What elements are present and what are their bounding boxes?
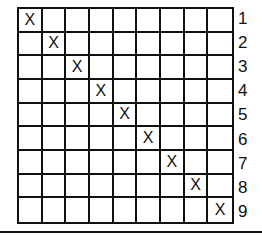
grid-cell xyxy=(114,80,138,104)
grid-cell xyxy=(137,9,161,33)
row-label: 7 xyxy=(238,152,258,176)
grid-cell xyxy=(19,56,43,80)
grid-cell xyxy=(185,9,209,33)
grid-cell xyxy=(43,198,67,222)
grid-cell xyxy=(161,80,185,104)
grid-cell xyxy=(137,80,161,104)
grid-cell xyxy=(208,56,232,80)
grid-cell xyxy=(185,198,209,222)
grid-cell xyxy=(66,80,90,104)
grid-cell xyxy=(43,104,67,128)
grid-cell: X xyxy=(19,9,43,33)
grid-cell xyxy=(66,9,90,33)
grid-cell xyxy=(161,33,185,57)
horizontal-rule xyxy=(0,231,262,233)
row-label: 8 xyxy=(238,176,258,200)
x-mark: X xyxy=(48,34,59,52)
grid-cell: X xyxy=(137,127,161,151)
row-label: 1 xyxy=(238,7,258,31)
diagonal-grid: XXXXXXXXX xyxy=(17,7,234,224)
grid-cell xyxy=(161,127,185,151)
grid-cell xyxy=(19,151,43,175)
grid-cell xyxy=(43,175,67,199)
x-mark: X xyxy=(119,105,130,123)
row-label: 6 xyxy=(238,128,258,152)
grid-cell xyxy=(185,33,209,57)
grid-cell xyxy=(66,198,90,222)
x-mark: X xyxy=(24,11,35,29)
grid-cell xyxy=(66,151,90,175)
grid-cell xyxy=(161,9,185,33)
row-label: 5 xyxy=(238,103,258,127)
grid-cell xyxy=(161,198,185,222)
grid-cell xyxy=(114,127,138,151)
grid-cell xyxy=(208,175,232,199)
grid-cell xyxy=(19,33,43,57)
grid-cell xyxy=(114,175,138,199)
grid-cell xyxy=(185,104,209,128)
grid-cell xyxy=(208,33,232,57)
row-labels: 123456789 xyxy=(238,7,258,224)
grid-cell xyxy=(114,151,138,175)
grid-cell xyxy=(90,9,114,33)
row-label: 2 xyxy=(238,31,258,55)
grid-cell xyxy=(208,9,232,33)
grid-cell xyxy=(137,33,161,57)
grid-cell xyxy=(90,33,114,57)
grid-cell xyxy=(90,151,114,175)
grid-cell xyxy=(114,198,138,222)
grid-cell xyxy=(161,104,185,128)
grid-cell xyxy=(43,151,67,175)
x-mark: X xyxy=(143,129,154,147)
grid-cell xyxy=(114,56,138,80)
grid-cell xyxy=(90,127,114,151)
grid-cell xyxy=(19,80,43,104)
row-label: 3 xyxy=(238,55,258,79)
x-mark: X xyxy=(72,58,83,76)
grid-cell xyxy=(43,56,67,80)
grid-cell xyxy=(90,175,114,199)
x-mark: X xyxy=(190,176,201,194)
grid-cell xyxy=(161,175,185,199)
x-mark: X xyxy=(215,201,226,219)
grid-cell xyxy=(66,104,90,128)
grid-cell xyxy=(185,80,209,104)
grid-cell xyxy=(19,104,43,128)
grid-cell xyxy=(19,198,43,222)
grid-cell xyxy=(114,33,138,57)
grid-cell: X xyxy=(43,33,67,57)
grid-cell xyxy=(137,175,161,199)
grid-cell xyxy=(43,9,67,33)
grid-cell xyxy=(66,175,90,199)
grid-cell: X xyxy=(66,56,90,80)
grid-cell: X xyxy=(114,104,138,128)
grid-cell xyxy=(208,104,232,128)
grid-cell xyxy=(185,56,209,80)
grid-cell xyxy=(66,127,90,151)
grid-cell xyxy=(114,9,138,33)
grid-cell xyxy=(137,56,161,80)
grid-cell: X xyxy=(185,175,209,199)
x-mark: X xyxy=(95,82,106,100)
grid-cell xyxy=(161,56,185,80)
grid-cell xyxy=(208,127,232,151)
grid-cell xyxy=(43,127,67,151)
grid-cell xyxy=(208,151,232,175)
grid-cell xyxy=(19,127,43,151)
grid-cell xyxy=(137,104,161,128)
grid-cell xyxy=(185,151,209,175)
grid-cell: X xyxy=(90,80,114,104)
grid-cell: X xyxy=(208,198,232,222)
row-label: 9 xyxy=(238,200,258,224)
grid-cell xyxy=(137,198,161,222)
grid-cell: X xyxy=(161,151,185,175)
grid-cell xyxy=(66,33,90,57)
grid-cell xyxy=(90,104,114,128)
grid-cell xyxy=(43,80,67,104)
grid-cell xyxy=(90,56,114,80)
grid-cell xyxy=(19,175,43,199)
x-mark: X xyxy=(166,153,177,171)
row-label: 4 xyxy=(238,79,258,103)
grid-cell xyxy=(208,80,232,104)
grid-cell xyxy=(185,127,209,151)
